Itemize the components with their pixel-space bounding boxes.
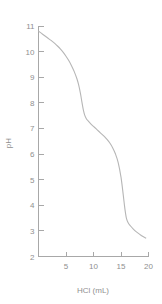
y-axis-tick-labels: 234567891011 (26, 22, 35, 262)
y-tick-label: 8 (30, 99, 35, 108)
x-tick-label: 5 (64, 262, 69, 271)
y-tick-label: 3 (30, 227, 35, 236)
y-tick-label: 11 (26, 22, 35, 31)
titration-curve-figure: 234567891011 5101520 HCl (mL) pH (0, 0, 162, 304)
y-tick-label: 2 (30, 253, 35, 262)
x-tick-label: 15 (117, 262, 126, 271)
chart-canvas: 234567891011 5101520 HCl (mL) pH (0, 0, 162, 304)
y-tick-label: 10 (26, 48, 35, 57)
y-tick-label: 6 (30, 150, 35, 159)
y-tick-label: 5 (30, 176, 35, 185)
x-axis-tick-labels: 5101520 (64, 262, 154, 271)
y-axis-title: pH (4, 138, 13, 148)
x-tick-label: 20 (144, 262, 153, 271)
x-axis-title: HCl (mL) (77, 286, 109, 295)
y-tick-label: 4 (30, 201, 35, 210)
y-axis-ticks (39, 26, 44, 257)
data-series-group (39, 31, 146, 238)
titration-curve-line (39, 31, 146, 238)
x-axis-ticks (66, 252, 149, 257)
x-tick-label: 10 (89, 262, 98, 271)
y-tick-label: 7 (30, 124, 35, 133)
axis-lines (38, 26, 149, 257)
y-tick-label: 9 (30, 73, 35, 82)
